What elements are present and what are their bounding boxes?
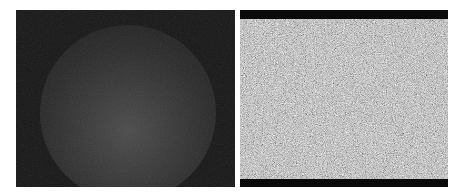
- bottom-black-bar: [240, 179, 448, 187]
- top-black-bar: [240, 10, 448, 19]
- right-noise-texture: [240, 10, 448, 187]
- left-image-panel: [16, 10, 235, 187]
- left-noise-texture: [16, 10, 235, 187]
- right-image-panel: [240, 10, 448, 187]
